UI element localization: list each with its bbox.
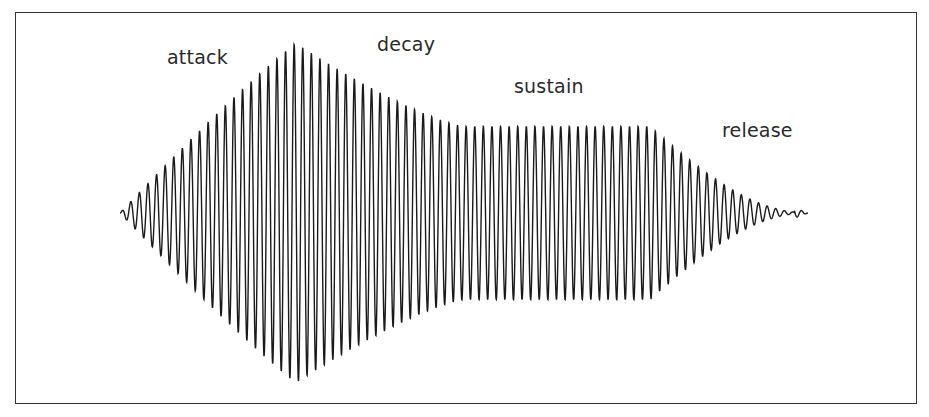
label-release: release: [722, 119, 793, 141]
adsr-waveform: [120, 44, 808, 381]
label-sustain: sustain: [514, 75, 584, 97]
label-attack: attack: [167, 46, 228, 68]
label-decay: decay: [377, 33, 435, 55]
waveform-canvas: [0, 0, 929, 417]
